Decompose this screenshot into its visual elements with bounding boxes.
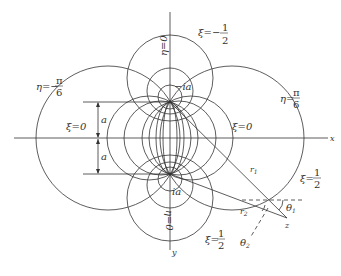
theta2-arc bbox=[262, 205, 265, 211]
point-z-label: z bbox=[284, 221, 290, 230]
xi-zero-right-label: ξ=0 bbox=[232, 121, 253, 132]
xi-half-bottom-lhs: ξ= bbox=[205, 234, 219, 245]
a-arrow-mid-down bbox=[96, 139, 100, 144]
top-focus-dot bbox=[169, 101, 172, 104]
ia-label: ia bbox=[172, 186, 181, 197]
xi-zero-left-label: ξ=0 bbox=[66, 121, 87, 132]
minus-ia-label: −ia bbox=[174, 81, 192, 92]
xi-half-bottom-den: 2 bbox=[218, 240, 224, 251]
r2-line bbox=[170, 174, 287, 218]
bipolar-diagram: x y −ia ia ξ=− 1 2 η=− π 6 η= π 6 ξ=0 ξ=… bbox=[0, 0, 341, 276]
xi-minus-half-num: 1 bbox=[222, 22, 228, 33]
theta2-reference-dashed bbox=[250, 208, 268, 238]
eta-minus-pi6-num: π bbox=[56, 75, 63, 86]
r1-label: r1 bbox=[250, 165, 258, 175]
eta-pi6-num: π bbox=[293, 87, 300, 98]
eta-pi6-den: 6 bbox=[293, 99, 299, 110]
theta1-arc bbox=[279, 200, 283, 210]
x-axis-label: x bbox=[330, 134, 335, 143]
xi-minus-half-lhs: ξ=− bbox=[198, 27, 220, 38]
a-upper-label: a bbox=[101, 114, 107, 125]
a-lower-label: a bbox=[101, 151, 107, 162]
bottom-focus-dot bbox=[169, 173, 172, 176]
y-axis-label: y bbox=[171, 248, 177, 257]
xi-half-right-lhs: ξ= bbox=[300, 173, 314, 184]
eta-minus-pi6-den: 6 bbox=[56, 87, 62, 98]
xi-half-bottom-num: 1 bbox=[218, 228, 224, 239]
eta-zero-bottom-label: η=0 bbox=[164, 210, 175, 231]
xi-half-right-den: 2 bbox=[314, 179, 320, 190]
theta1-label: θ1 bbox=[286, 202, 296, 214]
eta-zero-top-label: η=0 bbox=[158, 35, 169, 56]
a-arrow-bottom bbox=[96, 169, 100, 174]
xi-minus-half-den: 2 bbox=[222, 35, 228, 46]
theta2-label: θ2 bbox=[240, 237, 250, 249]
xi-half-right-num: 1 bbox=[314, 167, 320, 178]
a-arrow-top bbox=[96, 102, 100, 107]
a-arrow-mid-up bbox=[96, 133, 100, 138]
